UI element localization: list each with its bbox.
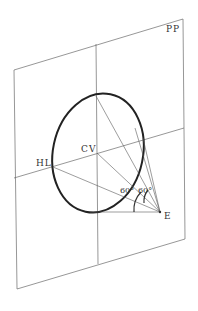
angle-arc-left xyxy=(134,192,141,212)
ray-upper-right xyxy=(135,128,160,212)
label-angle-right: 60° xyxy=(138,186,152,195)
label-cv: CV xyxy=(81,144,96,154)
horizon-line xyxy=(14,128,184,178)
ray-center xyxy=(97,153,160,212)
ray-right xyxy=(143,138,160,212)
eye-point xyxy=(159,211,161,213)
picture-plane xyxy=(14,19,185,289)
label-pp: PP xyxy=(166,24,180,34)
label-hl: HL xyxy=(36,158,52,168)
label-angle-left: 60° xyxy=(120,186,134,195)
label-e: E xyxy=(164,211,172,221)
perspective-diagram: PP CV HL E 60° 60° xyxy=(0,0,198,311)
